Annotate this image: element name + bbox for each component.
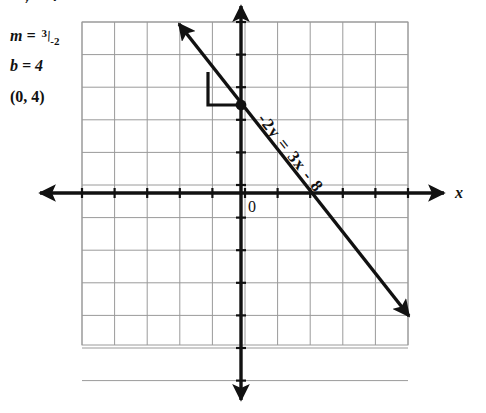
figure-page: y = 4 m = 3/-2 b = 4 (0, 4) <box>0 0 486 413</box>
graph-svg: 0 x -2y = 3x - 8 <box>0 0 486 413</box>
grid-vertical-lines <box>82 22 408 345</box>
slope-triangle-legs <box>208 72 241 105</box>
grid <box>82 22 408 381</box>
coordinate-plane: 0 x -2y = 3x - 8 <box>0 0 486 413</box>
x-axis-label: x <box>454 184 463 201</box>
origin-label: 0 <box>248 198 256 215</box>
y-intercept-point <box>236 100 247 111</box>
